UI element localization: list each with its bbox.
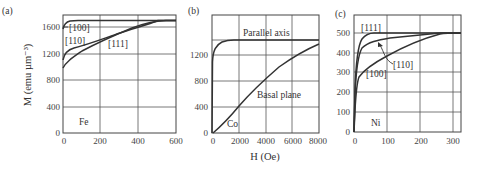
svg-text:400: 400 [337,48,351,58]
svg-text:0: 0 [204,128,209,138]
svg-text:800: 800 [195,76,209,86]
panel-a-y-ticks: 0 400 800 1200 1600 [42,22,61,138]
svg-text:8000: 8000 [309,136,328,146]
svg-text:400: 400 [195,102,209,112]
svg-text:6000: 6000 [284,136,303,146]
svg-text:800: 800 [47,75,61,85]
svg-text:0: 0 [353,136,358,146]
label-ni-110: [110] [393,60,413,70]
panel-a-label: (a) [2,6,13,17]
panel-c-ni: (c) 0 100 200 300 400 500 0 100 200 300 [335,9,461,146]
svg-text:0: 0 [62,136,67,146]
x-axis-label: H (Oe) [250,151,280,163]
svg-text:200: 200 [414,136,428,146]
svg-text:1200: 1200 [42,49,61,59]
label-co-basal: Basal plane [257,90,301,100]
material-label-ni: Ni [371,118,381,128]
label-fe-110: [110] [65,36,85,46]
panel-b-label: (b) [188,6,199,17]
panel-b-x-ticks: 0 2000 4000 6000 8000 [211,136,328,146]
panel-a-x-ticks: 0 200 400 600 [62,136,184,146]
arrowhead-icon [378,42,383,47]
panel-b-y-ticks: 0 400 800 1200 [190,50,209,138]
svg-text:0: 0 [346,127,351,137]
svg-text:400: 400 [131,136,145,146]
label-ni-111: [111] [361,23,381,33]
material-label-fe: Fe [79,117,89,127]
label-co-parallel: Parallel axis [243,28,290,38]
svg-text:100: 100 [337,107,351,117]
panel-b-co: (b) 0 400 800 1200 0 2000 4000 6000 8000… [188,6,328,163]
label-fe-100: [100] [69,23,90,33]
panel-c-label: (c) [335,9,346,20]
svg-text:1600: 1600 [42,22,61,32]
svg-text:300: 300 [446,136,460,146]
magnetization-curves-figure: (a) 0 400 800 1200 1600 0 200 400 600 [0,0,484,170]
svg-text:400: 400 [47,102,61,112]
svg-text:4000: 4000 [257,136,276,146]
panel-c-y-ticks: 0 100 200 300 400 500 [337,28,351,137]
svg-text:200: 200 [337,87,351,97]
svg-text:0: 0 [56,128,61,138]
panel-c-x-ticks: 0 100 200 300 [353,136,461,146]
svg-text:300: 300 [337,67,351,77]
svg-text:600: 600 [169,136,183,146]
label-ni-100: [100] [366,69,387,79]
y-axis-label: M (emu µm⁻³) [22,43,34,106]
svg-text:1200: 1200 [190,50,209,60]
panel-a-fe: (a) 0 400 800 1200 1600 0 200 400 600 [2,6,183,146]
svg-text:500: 500 [337,28,351,38]
svg-text:200: 200 [93,136,107,146]
svg-text:100: 100 [381,136,395,146]
svg-text:2000: 2000 [231,136,250,146]
label-fe-111: [111] [108,39,128,49]
material-label-co: Co [227,119,238,129]
svg-text:0: 0 [211,136,216,146]
